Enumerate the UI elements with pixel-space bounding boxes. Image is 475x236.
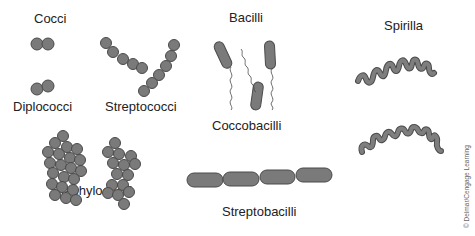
coccus-cell [50,138,61,149]
coccus-cell [108,158,119,169]
flagellum [230,67,232,110]
coccus-cell [118,54,129,65]
coccus-cell [71,195,82,206]
label-cocci: Cocci [34,11,67,26]
staphylococci-cluster-right [103,138,141,210]
coccus-cell [108,47,119,58]
coccus-cell [72,144,83,155]
copyright-credit: © Delmar/Cengage Learning [463,145,471,228]
coccus-cell [103,188,114,199]
bacillus-cell [187,173,223,187]
label-diplococci: Diplococci [13,99,72,114]
coccus-cell [61,193,72,204]
coccus-cell [130,159,141,170]
coccus-cell [101,38,112,49]
bacillus-cell [296,168,332,182]
coccobacillus-cell [250,81,264,110]
streptobacilli-group [187,168,332,187]
coccus-cell [119,160,130,171]
coccus-cell [65,153,76,164]
coccus-cell [31,38,43,50]
coccus-cell [119,199,130,210]
coccus-cell [66,163,77,174]
coccus-cell [166,51,177,62]
diplococci-group [31,38,54,95]
flagellum [241,49,256,92]
streptococci-group [101,38,180,97]
coccus-cell [103,147,114,158]
coccus-cell [43,147,54,158]
coccus-cell [42,80,54,92]
bacteria-shapes-diagram: Cocci Diplococci Streptococci Staphyloco… [0,0,475,236]
coccus-cell [137,63,148,74]
coccus-cell [45,158,56,169]
coccus-cell [123,170,134,181]
coccus-cell [48,168,59,179]
bacillus-cell [223,172,259,186]
coccus-cell [169,40,180,51]
coccus-cell [75,155,86,166]
label-streptobacilli: Streptobacilli [222,204,297,219]
coccus-cell [50,190,61,201]
label-streptococci: Streptococci [105,99,177,114]
spirillum [358,60,434,83]
coccus-cell [139,86,150,97]
coccus-cell [31,83,43,95]
coccus-cell [110,138,121,149]
bacilli-group [213,40,276,110]
label-spirilla: Spirilla [384,18,424,33]
spirilla-group [358,60,441,153]
coccus-cell [47,179,58,190]
coccus-cell [54,149,65,160]
coccus-cell [161,61,172,72]
bacillus-cell [260,170,295,184]
spirillum [361,127,441,152]
flagellum [271,69,273,110]
coccus-cell [69,174,80,185]
coccus-cell [59,172,70,183]
coccus-cell [112,169,123,180]
coccus-cell [42,38,54,50]
bacillus-cell [264,41,275,69]
label-coccobacilli: Coccobacilli [212,118,281,133]
bacillus-cell [213,40,234,70]
label-bacilli: Bacilli [229,10,263,25]
coccus-cell [124,187,135,198]
